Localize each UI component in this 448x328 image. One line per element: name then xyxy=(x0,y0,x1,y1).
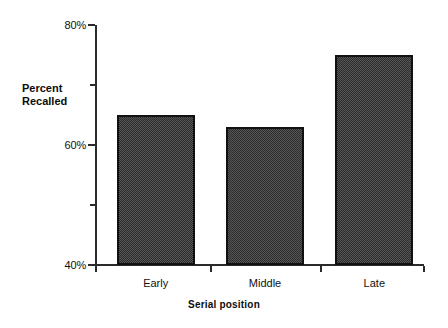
x-tick-label-late: Late xyxy=(364,277,385,289)
y-axis-title-line-1: Percent xyxy=(22,82,67,95)
bar-middle xyxy=(226,127,304,265)
x-tick xyxy=(210,266,212,272)
y-tick-major xyxy=(88,264,95,266)
y-tick-label: 80% xyxy=(65,19,86,31)
y-tick-label: 60% xyxy=(65,139,86,151)
y-tick-major xyxy=(88,144,95,146)
x-axis-end-tick xyxy=(423,266,425,272)
y-axis-line xyxy=(95,25,97,266)
y-tick-minor xyxy=(90,84,95,86)
x-tick-label-middle: Middle xyxy=(249,277,281,289)
y-tick-major xyxy=(88,24,95,26)
x-axis-start-tick xyxy=(95,266,97,272)
y-axis-title-line-2: Recalled xyxy=(22,95,67,108)
x-tick-label-early: Early xyxy=(143,277,168,289)
bar-late xyxy=(335,55,413,265)
y-axis-title: Percent Recalled xyxy=(22,82,67,108)
bar-chart: Percent Recalled 80%60%40%EarlyMiddleLat… xyxy=(0,0,448,328)
x-axis-title: Serial position xyxy=(0,299,448,310)
plot-area: 80%60%40%EarlyMiddleLate xyxy=(95,25,423,265)
y-tick-minor xyxy=(90,204,95,206)
y-tick-label: 40% xyxy=(65,259,86,271)
bar-early xyxy=(117,115,195,265)
x-tick xyxy=(320,266,322,272)
